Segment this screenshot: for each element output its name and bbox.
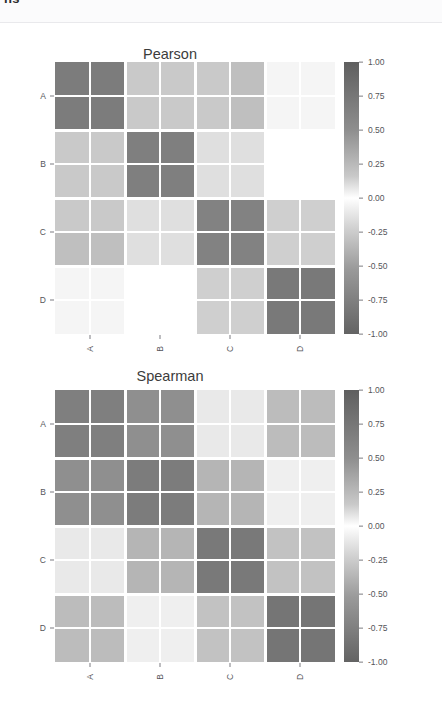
colorbar-tick-mark [359,492,363,493]
pearson-heatmap-grid [55,62,335,334]
heatmap-cell [90,266,125,300]
heatmap-cell [125,130,160,164]
colorbar-tick: 0.00 [359,193,385,204]
heatmap-cell [195,62,230,96]
spearman-colorbar: 1.000.750.500.250.00-0.25-0.50-0.75-1.00 [344,390,359,662]
heatmap-cell [160,492,195,526]
colorbar-tick: -0.50 [359,261,387,272]
colorbar-tick-label: 1.00 [368,385,385,395]
heatmap-cell [55,458,90,492]
heatmap-cell [160,130,195,164]
clipped-heading-text: ns [4,0,20,6]
colorbar-tick: 0.50 [359,453,385,464]
heatmap-cell [160,594,195,628]
heatmap-cell [300,526,335,560]
y-tick-mark [50,232,54,233]
colorbar-tick-mark [359,526,363,527]
y-tick-label: B [40,159,46,169]
heatmap-cell [125,266,160,300]
heatmap-cell [265,526,300,560]
heatmap-cell [230,458,265,492]
colorbar-tick: -1.00 [359,657,387,668]
y-tick-label: C [40,227,46,237]
colorbar-tick: -0.25 [359,227,387,238]
heatmap-cell [55,594,90,628]
heatmap-cell [55,198,90,232]
heatmap-cell [55,628,90,662]
x-tick-mark [300,663,301,667]
heatmap-cell [160,424,195,458]
heatmap-cell [195,198,230,232]
heatmap-cell [265,300,300,334]
heatmap-cell [55,62,90,96]
heatmap-cell [195,628,230,662]
heatmap-cell [125,424,160,458]
heatmap-cell [55,492,90,526]
colorbar-tick: 0.25 [359,487,385,498]
y-tick-mark [50,492,54,493]
colorbar-tick: -0.75 [359,623,387,634]
colorbar-tick-mark [359,164,363,165]
colorbar-tick-mark [359,62,363,63]
spearman-heatmap-grid [55,390,335,662]
colorbar-tick: 0.75 [359,91,385,102]
colorbar-tick: 0.00 [359,521,385,532]
colorbar-tick-label: -0.75 [368,295,387,305]
colorbar-tick-label: -0.50 [368,589,387,599]
colorbar-tick-label: -1.00 [368,657,387,667]
colorbar-tick-mark [359,96,363,97]
colorbar-tick-mark [359,594,363,595]
heatmap-cell [160,628,195,662]
spearman-title: Spearman [0,368,340,384]
heatmap-cell [90,560,125,594]
heatmap-cell [300,628,335,662]
x-tick-label: C [225,346,235,352]
heatmap-cell [160,96,195,130]
heatmap-cell [55,266,90,300]
heatmap-cell [160,458,195,492]
heatmap-cell [125,62,160,96]
colorbar-tick-label: 0.75 [368,419,385,429]
heatmap-cell [230,390,265,424]
heatmap-cell [125,164,160,198]
heatmap-cell [300,594,335,628]
x-tick-mark [230,663,231,667]
heatmap-cell [55,424,90,458]
heatmap-cell [125,300,160,334]
y-tick-label: D [40,623,46,633]
heatmap-cell [300,266,335,300]
heatmap-cell [300,62,335,96]
heatmap-cell [265,560,300,594]
colorbar-tick-label: 0.00 [368,193,385,203]
x-tick-mark [230,335,231,339]
heatmap-cell [90,492,125,526]
heatmap-cell [160,232,195,266]
colorbar-tick-mark [359,662,363,663]
heatmap-cell [90,424,125,458]
colorbar-tick: -0.50 [359,589,387,600]
pearson-panel: Pearson ABCD ABCD 1.000.750.500.250.00-0… [0,26,442,366]
heatmap-cell [300,560,335,594]
x-tick-mark [90,663,91,667]
heatmap-cell [90,300,125,334]
y-tick-label: A [40,91,46,101]
heatmap-cell [230,492,265,526]
heatmap-cell [195,300,230,334]
x-tick-label: B [155,346,165,352]
y-tick-label: A [40,419,46,429]
heatmap-cell [195,424,230,458]
heatmap-cell [90,458,125,492]
heatmap-cell [230,62,265,96]
colorbar-tick-label: 0.50 [368,453,385,463]
heatmap-cell [160,300,195,334]
heatmap-cell [160,164,195,198]
heatmap-cell [265,390,300,424]
y-tick-mark [50,424,54,425]
colorbar-tick-mark [359,334,363,335]
colorbar-tick-mark [359,560,363,561]
heatmap-cell [125,458,160,492]
heatmap-cell [230,300,265,334]
heatmap-cell [55,130,90,164]
colorbar-tick: 1.00 [359,385,385,396]
heatmap-cell [195,492,230,526]
